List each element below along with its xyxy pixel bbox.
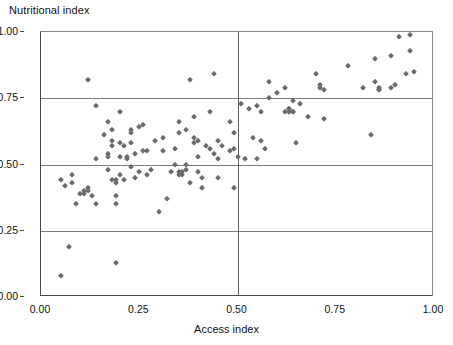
y-axis-tick-label: 0.75: [0, 91, 18, 103]
data-point: [109, 127, 115, 133]
x-axis-tick-label: 1.00: [398, 303, 453, 315]
data-point: [69, 180, 75, 186]
data-point: [105, 167, 111, 173]
data-point: [120, 143, 126, 149]
x-axis-tick-label: 0.50: [202, 303, 272, 315]
data-point: [195, 153, 201, 159]
data-point: [65, 244, 71, 250]
y-axis-title: Nutritional index: [9, 4, 90, 16]
data-point: [215, 156, 221, 162]
y-axis-tick-label: 0.25: [0, 224, 18, 236]
data-point: [128, 140, 134, 146]
data-point: [175, 130, 181, 136]
data-point: [113, 201, 119, 207]
data-point: [230, 185, 236, 191]
data-point: [113, 193, 119, 199]
data-point: [195, 138, 201, 144]
data-point: [293, 140, 299, 146]
x-axis-tick-label: 0.00: [5, 303, 75, 315]
data-point: [199, 185, 205, 191]
data-point: [183, 167, 189, 173]
gridline-horizontal: [41, 231, 432, 232]
data-point: [211, 71, 217, 77]
data-point: [368, 132, 374, 138]
gridline-horizontal: [41, 165, 432, 166]
data-point: [160, 135, 166, 141]
data-point: [403, 71, 409, 77]
data-point: [407, 47, 413, 53]
data-point: [93, 156, 99, 162]
data-point: [411, 69, 417, 75]
data-point: [313, 71, 319, 77]
x-axis-tick-label: 0.75: [300, 303, 370, 315]
data-point: [183, 127, 189, 133]
data-point: [175, 119, 181, 125]
y-axis-tick-label: 0.00: [0, 290, 18, 302]
data-point: [101, 132, 107, 138]
data-point: [297, 100, 303, 106]
data-point: [282, 85, 288, 91]
data-point: [116, 108, 122, 114]
y-axis-tick-label: 0.50: [0, 158, 18, 170]
data-point: [289, 98, 295, 104]
x-axis-tick-label: 0.25: [103, 303, 173, 315]
data-point: [156, 209, 162, 215]
data-point: [258, 138, 264, 144]
data-point: [219, 143, 225, 149]
data-point: [376, 87, 382, 93]
data-point: [160, 148, 166, 154]
data-point: [372, 79, 378, 85]
data-point: [258, 108, 264, 114]
plot-inner: [41, 32, 432, 295]
data-point: [215, 175, 221, 181]
data-point: [187, 180, 193, 186]
data-point: [144, 172, 150, 178]
data-point: [187, 77, 193, 83]
data-point: [227, 119, 233, 125]
scatter-chart: Nutritional index 0.000.250.500.751.000.…: [0, 0, 453, 345]
y-axis-tick-mark: [20, 31, 24, 32]
data-point: [116, 153, 122, 159]
data-point: [168, 169, 174, 175]
data-point: [191, 114, 197, 120]
gridline-vertical: [238, 32, 239, 295]
data-point: [105, 119, 111, 125]
data-point: [172, 145, 178, 151]
data-point: [238, 100, 244, 106]
data-point: [305, 114, 311, 120]
y-axis-tick-mark: [20, 230, 24, 231]
data-point: [132, 175, 138, 181]
data-point: [266, 95, 272, 101]
data-point: [254, 103, 260, 109]
gridline-horizontal: [41, 98, 432, 99]
data-point: [246, 106, 252, 112]
data-point: [321, 87, 327, 93]
plot-area: [40, 31, 433, 296]
data-point: [360, 85, 366, 91]
data-point: [73, 201, 79, 207]
data-point: [388, 53, 394, 59]
data-point: [242, 156, 248, 162]
data-point: [93, 201, 99, 207]
data-point: [152, 138, 158, 144]
data-point: [234, 153, 240, 159]
data-point: [215, 138, 221, 144]
data-point: [266, 79, 272, 85]
y-axis-tick-mark: [20, 97, 24, 98]
data-point: [372, 55, 378, 61]
data-point: [113, 259, 119, 265]
data-point: [69, 172, 75, 178]
data-point: [164, 196, 170, 202]
y-axis-tick-mark: [20, 164, 24, 165]
data-point: [144, 148, 150, 154]
x-axis-title: Access index: [0, 323, 453, 335]
data-point: [262, 145, 268, 151]
data-point: [250, 135, 256, 141]
data-point: [396, 34, 402, 40]
data-point: [136, 169, 142, 175]
data-point: [132, 151, 138, 157]
data-point: [199, 175, 205, 181]
data-point: [89, 193, 95, 199]
data-point: [344, 63, 350, 69]
data-point: [172, 161, 178, 167]
